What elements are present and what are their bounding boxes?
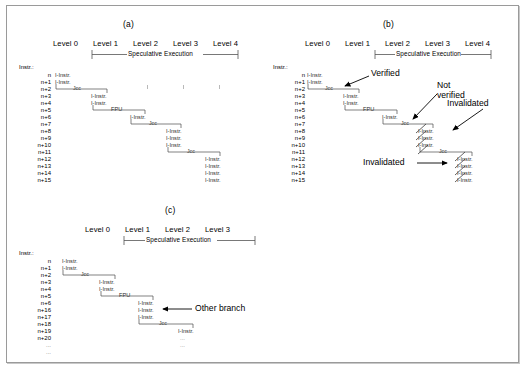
figure-container: (a) Level 0 Level 1 Level 2 Level 3 Leve…: [6, 5, 519, 363]
panel-b-annotation-invalidated-lower: Invalidated: [363, 158, 405, 168]
panel-b: (b) Level 0 Level 1 Level 2 Level 3 Leve…: [265, 6, 519, 192]
panel-c: (c) Level 0 Level 1 Level 2 Level 3 Spec…: [17, 192, 277, 363]
panel-b-annotation-verified: Verified: [371, 69, 400, 79]
panel-a: (a) Level 0 Level 1 Level 2 Level 3 Leve…: [7, 6, 269, 192]
panel-b-annotation-invalidated-upper: Invalidated: [447, 99, 489, 109]
panel-c-staircase-graphic: [17, 192, 277, 363]
panel-c-annotation-other-branch: Other branch: [195, 304, 245, 314]
panel-a-staircase-graphic: [7, 6, 269, 192]
